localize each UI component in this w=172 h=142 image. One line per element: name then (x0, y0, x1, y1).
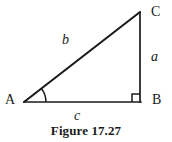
vertex-label-c: C (151, 5, 160, 19)
side-label-a: a (151, 50, 158, 64)
side-label-b: b (62, 33, 69, 47)
figure-container: A B C a b c Figure 17.27 (0, 0, 172, 142)
figure-caption: Figure 17.27 (0, 124, 172, 137)
right-angle-marker-icon (132, 94, 140, 102)
vertex-label-b: B (152, 93, 161, 107)
side-label-c: c (74, 109, 80, 123)
vertex-label-a: A (5, 93, 15, 107)
right-triangle-diagram (0, 0, 172, 142)
angle-arc-icon (41, 88, 46, 102)
